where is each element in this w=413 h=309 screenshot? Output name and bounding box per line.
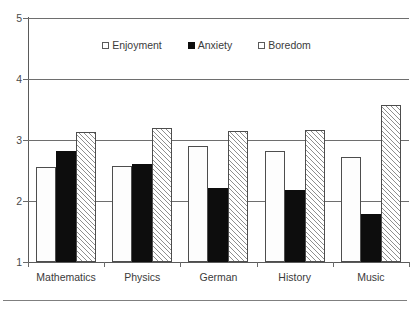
- document-separator-rule: [3, 300, 407, 301]
- bar-enjoyment[interactable]: [112, 166, 132, 262]
- y-tick-mark-4: [23, 79, 28, 80]
- legend-label: Enjoyment: [112, 40, 162, 51]
- x-tick-label-physics: Physics: [104, 270, 180, 284]
- legend-swatch-enjoyment-icon: [102, 42, 109, 49]
- plot-area: [28, 18, 409, 262]
- y-tick-label-4: 4: [6, 74, 22, 85]
- x-tick-mark: [104, 262, 105, 267]
- legend-entry-enjoyment[interactable]: Enjoyment: [102, 40, 162, 51]
- bar-enjoyment[interactable]: [341, 157, 361, 262]
- x-tick-label-german: German: [180, 270, 256, 284]
- x-tick-mark: [28, 262, 29, 267]
- x-axis-line: [28, 262, 409, 263]
- bar-group: [104, 18, 180, 262]
- bar-anxiety[interactable]: [208, 188, 228, 262]
- y-tick-label-3: 3: [6, 135, 22, 146]
- bar-group: [333, 18, 409, 262]
- x-tick-label-music: Music: [333, 270, 409, 284]
- bar-group: [180, 18, 256, 262]
- bars-layer: [28, 18, 409, 262]
- legend-swatch-anxiety-icon: [188, 42, 195, 49]
- bar-group: [28, 18, 104, 262]
- bar-anxiety[interactable]: [132, 164, 152, 262]
- y-tick-label-2: 2: [6, 196, 22, 207]
- bar-enjoyment[interactable]: [188, 146, 208, 262]
- bar-boredom[interactable]: [381, 105, 401, 262]
- bar-boredom[interactable]: [76, 132, 96, 262]
- bar-boredom[interactable]: [152, 128, 172, 262]
- y-tick-label-1: 1: [6, 257, 22, 268]
- legend-label: Anxiety: [198, 40, 232, 51]
- bar-anxiety[interactable]: [56, 151, 76, 262]
- x-tick-mark: [333, 262, 334, 267]
- x-tick-label-mathematics: Mathematics: [28, 270, 104, 284]
- y-tick-mark-5: [23, 18, 28, 19]
- x-axis-labels: MathematicsPhysicsGermanHistoryMusic: [28, 270, 409, 286]
- bar-anxiety[interactable]: [361, 214, 381, 262]
- bar-chart-figure: 12345 MathematicsPhysicsGermanHistoryMus…: [0, 0, 413, 309]
- y-tick-mark-2: [23, 201, 28, 202]
- legend-swatch-boredom-icon: [258, 42, 265, 49]
- y-tick-mark-3: [23, 140, 28, 141]
- bar-boredom[interactable]: [305, 130, 325, 262]
- x-tick-mark: [409, 262, 410, 267]
- bar-enjoyment[interactable]: [36, 167, 56, 262]
- bar-anxiety[interactable]: [285, 190, 305, 262]
- x-tick-mark: [180, 262, 181, 267]
- x-tick-label-history: History: [257, 270, 333, 284]
- legend-entry-boredom[interactable]: Boredom: [258, 40, 311, 51]
- bar-enjoyment[interactable]: [265, 151, 285, 262]
- chart-legend: EnjoymentAnxietyBoredom: [0, 40, 413, 51]
- bar-group: [257, 18, 333, 262]
- bar-boredom[interactable]: [228, 131, 248, 262]
- y-tick-label-5: 5: [6, 13, 22, 24]
- legend-entry-anxiety[interactable]: Anxiety: [188, 40, 232, 51]
- legend-label: Boredom: [268, 40, 311, 51]
- x-tick-mark: [257, 262, 258, 267]
